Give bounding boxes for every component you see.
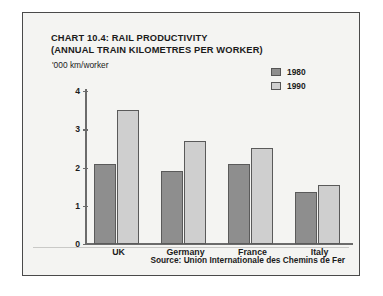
bars bbox=[295, 91, 340, 244]
legend-label-1990: 1990 bbox=[287, 81, 306, 91]
y-tick-label: 3 bbox=[75, 124, 80, 134]
x-tick-label-uk: UK bbox=[85, 247, 152, 257]
y-tick-label: 4 bbox=[75, 86, 80, 96]
y-tick-mark bbox=[83, 244, 88, 245]
bar-group-germany: Germany bbox=[152, 91, 219, 244]
bar-group-uk: UK bbox=[85, 91, 152, 244]
bar-uk-1990[interactable] bbox=[117, 110, 139, 244]
legend-swatch-1980 bbox=[271, 68, 281, 77]
bar-uk-1980[interactable] bbox=[94, 164, 116, 244]
legend-label-1980: 1980 bbox=[287, 67, 306, 77]
bar-france-1990[interactable] bbox=[251, 148, 273, 244]
chart-legend: 1980 1990 bbox=[271, 66, 333, 94]
bar-group-italy: Italy bbox=[286, 91, 353, 244]
source-divider bbox=[33, 247, 349, 248]
bar-italy-1990[interactable] bbox=[318, 185, 340, 244]
chart-figure: CHART 10.4: RAIL PRODUCTIVITY (ANNUAL TR… bbox=[0, 0, 383, 296]
chart-title-line-1: CHART 10.4: RAIL PRODUCTIVITY bbox=[51, 33, 341, 45]
legend-item-1980: 1980 bbox=[271, 66, 333, 78]
chart-title: CHART 10.4: RAIL PRODUCTIVITY (ANNUAL TR… bbox=[51, 33, 341, 56]
y-tick-label: 1 bbox=[75, 201, 80, 211]
y-tick-label: 2 bbox=[75, 163, 80, 173]
bar-group-france: France bbox=[219, 91, 286, 244]
bar-germany-1990[interactable] bbox=[184, 141, 206, 244]
bars bbox=[94, 91, 139, 244]
y-axis-label: '000 km/worker bbox=[52, 60, 109, 70]
chart-frame: CHART 10.4: RAIL PRODUCTIVITY (ANNUAL TR… bbox=[22, 12, 360, 276]
bars bbox=[228, 91, 273, 244]
bar-france-1980[interactable] bbox=[228, 164, 250, 244]
chart-title-line-2: (ANNUAL TRAIN KILOMETRES PER WORKER) bbox=[51, 45, 341, 57]
bar-italy-1980[interactable] bbox=[295, 192, 317, 244]
bars bbox=[161, 91, 206, 244]
bar-germany-1980[interactable] bbox=[161, 171, 183, 244]
legend-swatch-1990 bbox=[271, 82, 281, 91]
source-note: Source: Union Internationale des Chemins… bbox=[150, 255, 345, 265]
plot-area: 01234 UKGermanyFranceItaly bbox=[85, 91, 353, 244]
